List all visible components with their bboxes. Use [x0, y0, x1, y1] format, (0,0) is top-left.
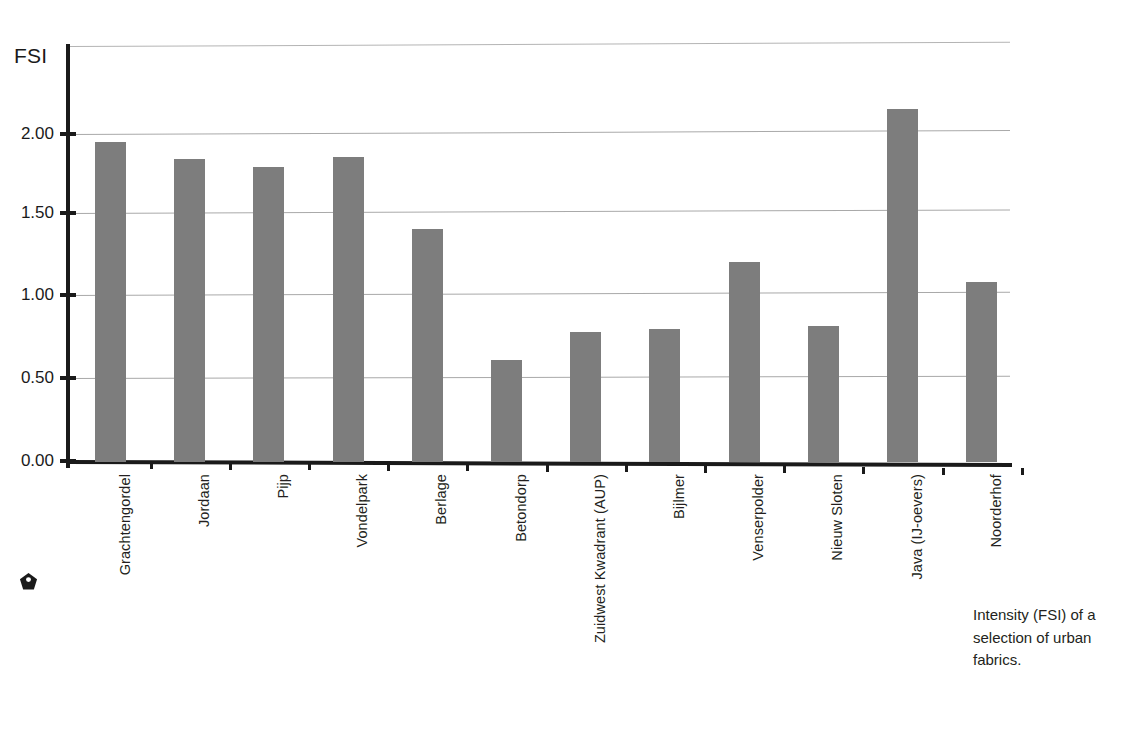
x-tick	[308, 463, 311, 470]
x-tick	[387, 464, 390, 471]
x-axis-category-label: Grachtengordel	[117, 474, 133, 575]
bar	[887, 109, 918, 462]
bar	[808, 326, 839, 462]
y-tick-label-0-00: 0.00	[0, 451, 54, 471]
bar	[333, 157, 364, 462]
x-axis-category-label: Berlage	[433, 474, 449, 525]
pentagon-bullet-icon	[19, 572, 38, 591]
x-axis-category-label: Noorderhof	[988, 474, 1004, 548]
x-axis-category-label: Vondelpark	[354, 474, 370, 548]
x-tick	[942, 468, 945, 475]
figure-caption: Intensity (FSI) of a selection of urban …	[973, 604, 1138, 672]
chart-figure: FSI 2.00 1.50 1.00 0.50 0.00 Grachtengor…	[0, 0, 1145, 744]
x-tick	[1021, 468, 1024, 475]
x-axis-category-label: Bijlmer	[671, 474, 687, 519]
bar	[570, 332, 601, 462]
x-axis-category-label: Pijp	[275, 474, 291, 499]
x-axis-category-label: Jordaan	[196, 474, 212, 527]
bar	[174, 159, 205, 462]
bar	[253, 167, 284, 462]
y-axis-title: FSI	[14, 44, 47, 68]
bar	[491, 360, 522, 462]
x-axis-category-label: Nieuw Sloten	[829, 474, 845, 561]
bar	[412, 229, 443, 462]
bar	[729, 262, 760, 462]
bar	[966, 282, 997, 462]
x-axis-category-label: Zuidwest Kwadrant (AUP)	[592, 474, 608, 643]
x-axis-category-label: Java (IJ-oevers)	[909, 474, 925, 580]
y-tick-label-1-50: 1.50	[0, 203, 54, 223]
x-tick	[704, 466, 707, 473]
y-tick-label-0-50: 0.50	[0, 368, 54, 388]
x-tick	[466, 464, 469, 471]
x-tick	[229, 463, 232, 470]
x-tick	[150, 462, 153, 469]
x-axis-category-label: Venserpolder	[750, 474, 766, 561]
x-axis-category-label: Betondorp	[513, 474, 529, 542]
x-tick	[625, 465, 628, 472]
y-tick-label-2-00: 2.00	[0, 124, 54, 144]
x-tick	[783, 466, 786, 473]
y-tick-label-1-00: 1.00	[0, 285, 54, 305]
bar	[95, 142, 126, 462]
bar	[649, 329, 680, 462]
x-tick	[862, 467, 865, 474]
bars-layer	[68, 40, 1014, 462]
x-tick	[546, 465, 549, 472]
